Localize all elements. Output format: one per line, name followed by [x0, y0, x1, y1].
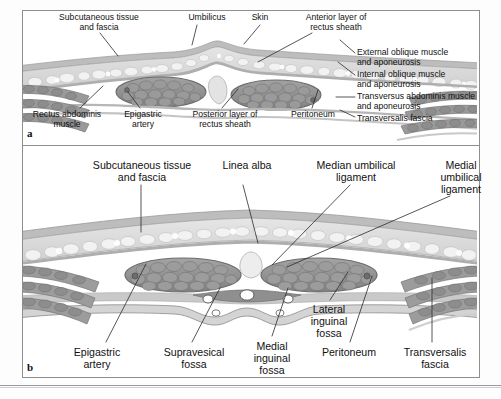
supravesical-vessel	[212, 310, 220, 316]
label-posterior-layer-rectus-sheath-a: Posterior layer of rectus sheath	[176, 110, 274, 130]
epigastric-artery-marker-a	[125, 88, 130, 93]
label-anterior-layer-rectus-sheath-a: Anterior layer of rectus sheath	[286, 13, 386, 33]
epigastric-artery-marker-b-left	[132, 273, 138, 279]
median-umbilical-ligament-vessel	[240, 290, 254, 300]
label-medial-inguinal-fossa: Medial inguinal fossa	[240, 340, 304, 376]
label-external-oblique-a: External oblique muscle and aponeurosis	[357, 48, 501, 68]
panel-letter-a: a	[27, 127, 33, 139]
label-supravesical-fossa: Supravesical fossa	[144, 346, 244, 370]
medial-umbilical-ligament-vessel-right	[283, 295, 293, 303]
label-umbilicus-a: Umbilicus	[172, 13, 242, 23]
label-transversalis-fascia-a: Transversalis fascia	[357, 114, 501, 124]
transversalis-fascia-a	[397, 133, 477, 140]
panel-letter-b: b	[27, 361, 33, 373]
bottom-rule	[0, 385, 501, 386]
epigastric-artery-marker-a2	[311, 98, 316, 103]
figure-page: Subcutaneous tissue and fascia Umbilicus…	[0, 0, 501, 399]
label-subcutaneous-tissue-b: Subcutaneous tissue and fascia	[62, 159, 222, 183]
medial-inguinal-vessel	[276, 310, 284, 316]
label-peritoneum-a: Peritoneum	[278, 110, 348, 120]
label-internal-oblique-a: Internal oblique muscle and aponeurosis	[357, 70, 501, 90]
label-epigastric-artery-b: Epigastric artery	[52, 346, 142, 370]
label-transversalis-fascia-b: Transversalis fascia	[388, 346, 482, 370]
label-lateral-inguinal-fossa: Lateral inguinal fossa	[296, 303, 362, 339]
umbilicus-stalk	[208, 76, 227, 104]
epigastric-artery-marker-b-right	[364, 273, 370, 279]
label-transversus-abdominis-a: Transversus abdominis muscle and aponeur…	[357, 92, 501, 112]
label-medial-umbilical-ligament: Medial umbilical ligament	[424, 159, 498, 195]
linea-alba	[240, 252, 262, 278]
label-epigastric-artery-a: Epigastric artery	[114, 110, 172, 130]
label-peritoneum-b: Peritoneum	[306, 346, 392, 358]
medial-umbilical-ligament-vessel-left	[203, 295, 213, 303]
label-median-umbilical-ligament: Median umbilical ligament	[296, 159, 416, 183]
bottom-rule-shadow	[0, 387, 501, 388]
label-subcutaneous-tissue-a: Subcutaneous tissue and fascia	[24, 13, 174, 33]
label-rectus-abdominis-a: Rectus abdominis muscle	[22, 110, 112, 130]
panel-b-anatomy-illustration	[23, 200, 477, 345]
label-linea-alba: Linea alba	[200, 159, 294, 171]
label-skin-a: Skin	[238, 13, 282, 23]
